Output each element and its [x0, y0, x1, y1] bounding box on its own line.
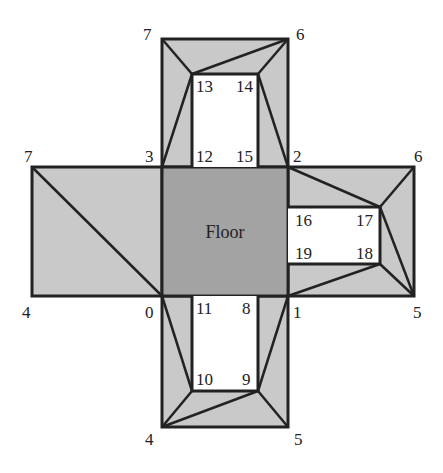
label-16: 16: [295, 211, 312, 230]
label-19: 19: [295, 244, 312, 263]
floor-label: Floor: [205, 222, 244, 242]
label-right-5: 5: [413, 303, 422, 322]
label-18: 18: [356, 244, 373, 263]
label-right-6: 6: [414, 147, 423, 166]
label-9: 9: [242, 370, 251, 389]
unfolded-box-diagram: Floor 7 6 13 14 12 15 7 3 2 6 16 17 19 1…: [0, 0, 443, 473]
label-15: 15: [236, 147, 253, 166]
label-top-6: 6: [296, 25, 305, 44]
label-11: 11: [196, 299, 212, 318]
label-3: 3: [145, 147, 154, 166]
label-17: 17: [356, 211, 374, 230]
label-top-7: 7: [143, 25, 152, 44]
label-12: 12: [196, 147, 213, 166]
label-13: 13: [196, 77, 213, 96]
label-bottom-5: 5: [294, 430, 303, 449]
label-10: 10: [196, 370, 213, 389]
label-1: 1: [293, 303, 302, 322]
label-left-4: 4: [22, 303, 31, 322]
label-0: 0: [145, 303, 154, 322]
label-8: 8: [242, 299, 251, 318]
label-bottom-4: 4: [145, 430, 154, 449]
label-left-7: 7: [24, 147, 33, 166]
label-14: 14: [236, 77, 254, 96]
label-2: 2: [293, 147, 302, 166]
